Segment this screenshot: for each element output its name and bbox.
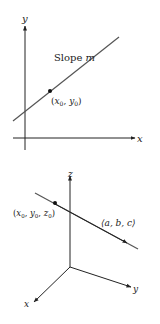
point-x0-y0 — [48, 89, 52, 93]
y-axis-3d — [70, 267, 131, 287]
y-axis-3d-label: y — [132, 284, 139, 294]
y-axis-label: y — [21, 13, 28, 24]
slope-label: Slope m — [54, 52, 95, 63]
x-axis-3d — [34, 267, 70, 302]
diagram-3d: z y x (x0, y0, z0) ⟨a, b, c⟩ — [13, 169, 139, 309]
point-3d-label: (x0, y0, z0) — [13, 208, 55, 219]
slope-line — [13, 37, 119, 121]
diagram-2d: y x Slope m (x0, y0) — [13, 13, 143, 150]
figure: y x Slope m (x0, y0) z y x (x0, y0, z0) … — [0, 0, 160, 324]
z-axis-label: z — [67, 169, 73, 179]
x-axis-3d-label: x — [24, 299, 29, 309]
x-axis-label: x — [137, 133, 143, 144]
point-label: (x0, y0) — [51, 96, 82, 107]
vector-label: ⟨a, b, c⟩ — [101, 218, 136, 228]
point-x0-y0-z0 — [53, 201, 57, 205]
